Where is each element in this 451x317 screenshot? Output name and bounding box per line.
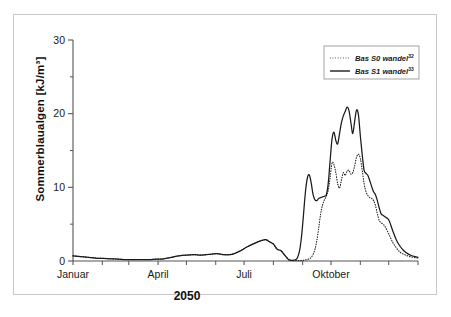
y-tick-label: 0 bbox=[59, 255, 65, 267]
y-axis-title: Sommerblaualgen [kJ/m³] bbox=[34, 29, 46, 229]
legend-label-2: Bas S1 wandel33 bbox=[355, 66, 414, 76]
x-tick-label: Januar bbox=[57, 268, 90, 280]
figure-panel: 0102030JanuarAprilJuliOktoberBas S0 wand… bbox=[13, 14, 437, 295]
x-tick-label: Juli bbox=[236, 268, 252, 280]
x-tick-label: April bbox=[148, 268, 169, 280]
x-axis-title-text: 2050 bbox=[174, 289, 201, 303]
y-tick-label: 20 bbox=[53, 107, 65, 119]
x-tick-label: Oktober bbox=[312, 268, 350, 280]
line-chart: 0102030JanuarAprilJuliOktoberBas S0 wand… bbox=[14, 15, 438, 296]
x-axis-title: 2050 bbox=[14, 289, 438, 303]
y-tick-label: 30 bbox=[53, 34, 65, 46]
series-line-1 bbox=[73, 154, 418, 261]
y-tick-label: 10 bbox=[53, 181, 65, 193]
series-line-2 bbox=[73, 107, 418, 260]
legend-label-1: Bas S0 wandel32 bbox=[355, 53, 414, 63]
